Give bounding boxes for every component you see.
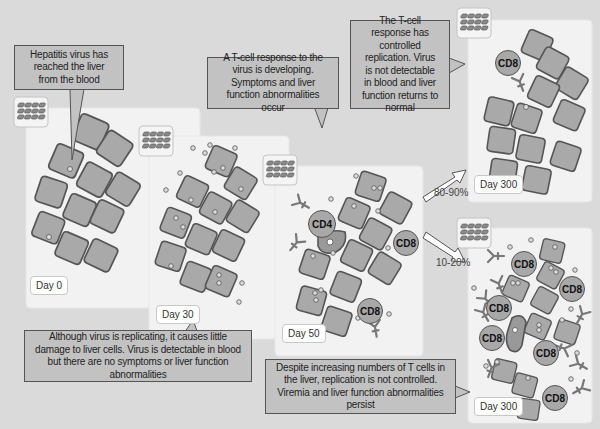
outcome-percent-resolved: 80-90% (434, 187, 468, 198)
t-cell-cd8: CD8 (479, 325, 505, 351)
blood-vessel-icon (139, 126, 173, 156)
blood-vessel-icon (14, 97, 48, 127)
callout-day-50: A T-cell response to the virus is develo… (207, 57, 339, 109)
outcome-percent-chronic: 10-20% (436, 257, 470, 268)
day-label: Day 30 (156, 305, 200, 324)
day-label: Day 0 (30, 276, 68, 295)
callout-chronic: Despite increasing numbers of T cells in… (265, 359, 456, 414)
t-cell-cd8: CD8 (357, 298, 383, 324)
callout-resolved: The T-cell response has controlled repli… (350, 20, 450, 109)
diagram: CD4 CD8 CD8 CD8 CD8 CD8 CD8 CD8 CD8 CD8 … (0, 0, 600, 429)
t-cell-cd8: CD8 (511, 251, 537, 277)
blood-vessel-icon (457, 218, 491, 248)
t-cell-cd8: CD8 (542, 385, 568, 411)
day-label: Day 300 (474, 397, 523, 416)
blood-vessel-icon (263, 155, 297, 185)
callout-day-0: Hepatitis virus has reached the liver fr… (14, 45, 124, 90)
day-label: Day 50 (282, 324, 326, 343)
t-cell-cd8: CD8 (393, 230, 419, 256)
t-cell-cd8: CD8 (533, 340, 559, 366)
day-label: Day 300 (474, 175, 523, 194)
t-cell-cd8: CD8 (495, 50, 521, 76)
callout-day-30: Although virus is replicating, it causes… (24, 330, 252, 382)
t-cell-cd4: CD4 (308, 210, 336, 238)
blood-vessel-icon (457, 8, 491, 38)
t-cell-cd8: CD8 (486, 295, 512, 321)
t-cell-cd8: CD8 (559, 276, 585, 302)
